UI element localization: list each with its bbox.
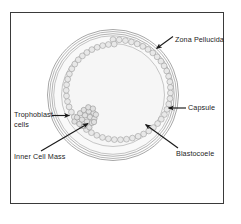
arrow-zona-pellucida [157,37,174,49]
label-trophoblast-cells: Trophoblastcells [14,110,53,129]
label-capsule: Capsule [188,103,215,113]
label-trophoblast-line2: cells [14,120,29,129]
blastocyst-body [48,30,179,161]
label-trophoblast-line1: Trophoblast [14,110,53,119]
label-blastocoele: Blastocoele [176,149,214,159]
label-zona-pellucida: Zona Pellucida [175,35,224,45]
diagram-page: Zona Pellucida Capsule Blastocoele Troph… [0,0,241,224]
label-inner-cell-mass: Inner Cell Mass [14,152,65,162]
